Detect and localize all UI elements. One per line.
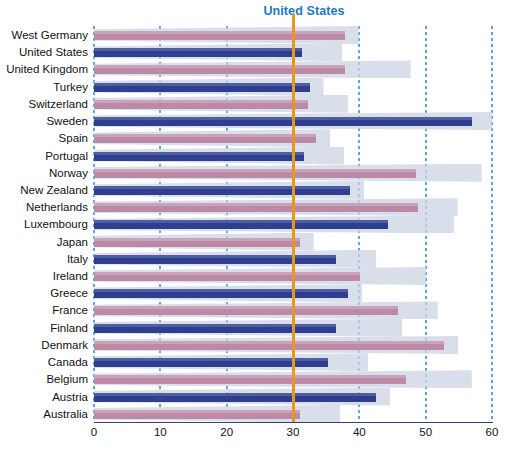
- y-label-sweden: Sweden: [46, 112, 88, 130]
- x-tick-50: 50: [419, 426, 432, 438]
- bar-austria[interactable]: [94, 393, 376, 402]
- bar-ireland[interactable]: [94, 272, 360, 281]
- x-axis-ticks: 0102030405060: [0, 426, 515, 446]
- bar-luxembourg[interactable]: [94, 220, 388, 229]
- y-label-greece: Greece: [50, 284, 88, 302]
- bar-italy[interactable]: [94, 255, 336, 264]
- y-label-austria: Austria: [52, 388, 88, 406]
- y-label-ireland: Ireland: [53, 267, 88, 285]
- bar-sweden[interactable]: [94, 117, 472, 126]
- bar-japan[interactable]: [94, 238, 300, 247]
- y-label-turkey: Turkey: [53, 78, 88, 96]
- bar-united-kingdom[interactable]: [94, 65, 345, 74]
- y-label-italy: Italy: [67, 250, 88, 268]
- y-label-west-germany: West Germany: [12, 26, 88, 44]
- bar-switzerland[interactable]: [94, 100, 308, 109]
- bar-finland[interactable]: [94, 324, 336, 333]
- y-label-portugal: Portugal: [45, 147, 88, 165]
- reference-line-label: United States: [263, 4, 344, 18]
- chart-container: United States West GermanyUnited StatesU…: [0, 0, 515, 463]
- y-label-japan: Japan: [57, 233, 88, 251]
- us-reference-line: [292, 14, 295, 422]
- x-tick-60: 60: [486, 426, 499, 438]
- y-label-denmark: Denmark: [41, 336, 88, 354]
- y-label-luxembourg: Luxembourg: [24, 215, 88, 233]
- bar-spain[interactable]: [94, 134, 316, 143]
- y-label-finland: Finland: [50, 319, 88, 337]
- x-tick-40: 40: [353, 426, 366, 438]
- y-label-united-states: United States: [19, 43, 88, 61]
- y-label-canada: Canada: [48, 353, 88, 371]
- y-label-netherlands: Netherlands: [26, 198, 88, 216]
- y-label-australia: Australia: [43, 405, 88, 423]
- bar-australia[interactable]: [94, 410, 300, 419]
- bar-denmark[interactable]: [94, 341, 444, 350]
- x-tick-10: 10: [154, 426, 167, 438]
- plot-area: [94, 26, 492, 422]
- bar-united-states[interactable]: [94, 48, 302, 57]
- x-tick-30: 30: [287, 426, 300, 438]
- bar-turkey[interactable]: [94, 83, 310, 92]
- y-axis-labels: West GermanyUnited StatesUnited KingdomT…: [0, 26, 88, 422]
- bar-france[interactable]: [94, 306, 398, 315]
- bar-norway[interactable]: [94, 169, 416, 178]
- x-axis-line: [94, 422, 493, 423]
- bar-west-germany[interactable]: [94, 31, 345, 40]
- x-tick-20: 20: [220, 426, 233, 438]
- bar-new-zealand[interactable]: [94, 186, 350, 195]
- y-label-norway: Norway: [49, 164, 88, 182]
- bar-portugal[interactable]: [94, 152, 304, 161]
- bar-netherlands[interactable]: [94, 203, 418, 212]
- y-label-united-kingdom: United Kingdom: [6, 60, 88, 78]
- y-label-belgium: Belgium: [46, 370, 88, 388]
- bar-greece[interactable]: [94, 289, 348, 298]
- bar-belgium[interactable]: [94, 375, 406, 384]
- x-tick-0: 0: [91, 426, 97, 438]
- y-label-spain: Spain: [59, 129, 88, 147]
- y-label-new-zealand: New Zealand: [20, 181, 88, 199]
- y-label-switzerland: Switzerland: [29, 95, 88, 113]
- y-label-france: France: [52, 301, 88, 319]
